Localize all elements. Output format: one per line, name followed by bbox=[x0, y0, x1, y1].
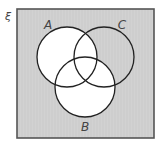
universal-set-symbol: ξ bbox=[4, 10, 12, 23]
set-c-label: C bbox=[118, 18, 127, 32]
set-b-label: B bbox=[81, 120, 89, 134]
venn-diagram: ξ A C B bbox=[0, 0, 163, 148]
set-a-label: A bbox=[43, 18, 52, 32]
